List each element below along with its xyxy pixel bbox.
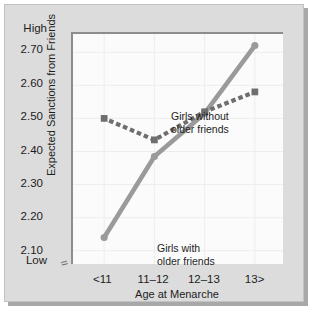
x-axis-tick-label: 11–12 <box>138 274 169 286</box>
y-axis-low-label: Low <box>5 255 47 267</box>
y-axis-tick-label: 2.20 <box>5 211 43 223</box>
x-axis-tick-label: 12–13 <box>188 274 220 286</box>
series-line <box>104 46 255 238</box>
data-point-marker <box>101 115 108 122</box>
chart-figure: Expected Sanctions from Friends High Low… <box>0 0 312 310</box>
chart-panel: Expected Sanctions from Friends High Low… <box>4 4 304 302</box>
y-axis-tick-label: 2.30 <box>5 178 43 190</box>
y-axis-high-label: High <box>5 23 47 35</box>
series-label-girls-without-older-friends: Girls without older friends <box>171 110 229 136</box>
y-axis-tick-label: 2.40 <box>5 145 43 157</box>
data-point-marker <box>151 153 158 160</box>
x-axis-tick-label: 13> <box>245 274 265 286</box>
y-axis-tick-label: 2.10 <box>5 245 43 257</box>
data-point-marker <box>251 89 258 96</box>
data-point-marker <box>151 137 158 144</box>
axis-break-icon: ≈ <box>59 256 70 270</box>
x-axis-tick-label: <11 <box>93 274 112 286</box>
y-axis-tick-label: 2.50 <box>5 111 43 123</box>
y-axis-tick-label: 2.60 <box>5 78 43 90</box>
data-point-marker <box>251 42 258 49</box>
y-axis-tick-label: 2.70 <box>5 44 43 56</box>
plot-area: Girls without older friends Girls with o… <box>71 32 283 264</box>
data-point-marker <box>101 234 108 241</box>
x-axis-title: Age at Menarche <box>71 288 283 300</box>
series-canvas <box>73 34 283 264</box>
series-label-girls-with-older-friends: Girls with older friends <box>157 242 215 268</box>
